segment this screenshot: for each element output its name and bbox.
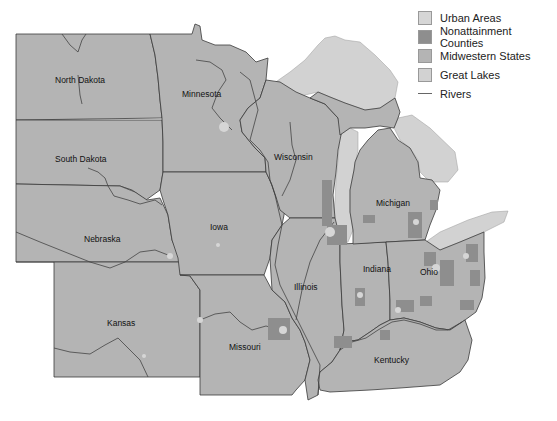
nonattainment-swatch — [418, 30, 432, 44]
label-iowa: Iowa — [210, 222, 228, 232]
label-michigan: Michigan — [376, 198, 410, 208]
legend-label: Great Lakes — [440, 69, 500, 81]
label-kentucky: Kentucky — [374, 355, 410, 365]
label-nebraska: Nebraska — [84, 234, 121, 244]
label-wisconsin: Wisconsin — [274, 152, 313, 162]
label-ohio: Ohio — [420, 267, 438, 277]
label-kansas: Kansas — [107, 318, 135, 328]
label-minnesota: Minnesota — [182, 89, 221, 99]
legend-item-nonattainment: Nonattainment Counties — [418, 27, 557, 46]
legend-label: Urban Areas — [440, 12, 501, 24]
legend-label: Nonattainment Counties — [440, 25, 557, 49]
great-lakes-swatch — [418, 68, 432, 82]
map-legend: Urban Areas Nonattainment Counties Midwe… — [418, 8, 557, 103]
legend-item-rivers: Rivers — [418, 84, 557, 103]
label-north-dakota: North Dakota — [55, 75, 105, 85]
river-line-icon — [418, 93, 432, 94]
legend-label: Midwestern States — [440, 50, 530, 62]
label-illinois: Illinois — [294, 282, 318, 292]
midwestern-states-swatch — [418, 49, 432, 63]
legend-item-midwestern-states: Midwestern States — [418, 46, 557, 65]
legend-label: Rivers — [440, 88, 471, 100]
legend-item-great-lakes: Great Lakes — [418, 65, 557, 84]
label-south-dakota: South Dakota — [55, 154, 107, 164]
urban-areas-swatch — [418, 11, 432, 25]
label-indiana: Indiana — [363, 264, 391, 274]
label-missouri: Missouri — [229, 342, 261, 352]
state-nebraska — [16, 184, 182, 262]
